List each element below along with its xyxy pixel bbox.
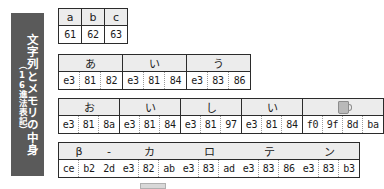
character-cell: い [120,99,180,116]
character-cell: - [99,143,119,160]
byte-cell-row: e3 81 97 [181,116,241,133]
byte-cell: e3 [181,116,201,133]
byte-cell-row: e3 83 ad [179,160,239,177]
character-cell: a [59,9,81,26]
byte-cell: 81 [201,116,221,133]
byte-cell: ad [219,160,239,177]
byte-cell: 61 [59,26,81,43]
character-cell: い [242,99,302,116]
byte-cell: 81 [79,116,99,133]
character-cell-emoji [303,99,383,116]
byte-cell: e3 [119,160,139,177]
char-group: カ e3 82 ab [119,143,179,177]
char-group: お e3 81 8a [59,99,120,133]
byte-cell: 62 [82,26,104,43]
byte-cell: b3 [339,160,359,177]
byte-cell: ce [59,160,79,177]
character-cell: ン [299,143,359,160]
byte-cell: f0 [303,116,323,133]
char-group: ン e3 83 b3 [299,143,359,177]
byte-cell: 84 [160,116,180,133]
char-group: a 61 [59,9,82,43]
byte-cell: e3 [242,116,262,133]
byte-cell: 82 [139,160,159,177]
character-cell: ロ [179,143,239,160]
char-group: c 63 [105,9,127,43]
char-group: し e3 81 97 [181,99,242,133]
byte-cell: b2 [79,160,99,177]
byte-table-oishii-emoji: お e3 81 8a い e3 81 84 し e3 81 [58,98,384,134]
byte-cell: 8d [343,116,363,133]
byte-cell: 82 [101,72,122,89]
byte-table-beta-karaten: β ce b2 - 2d カ e3 82 ab [58,142,360,178]
byte-cell-row: e3 83 86 [239,160,299,177]
byte-table-ascii-abc: a 61 b 62 c 63 [58,8,128,44]
table-row: a 61 b 62 c 63 [59,9,127,43]
byte-cell: ab [159,160,179,177]
byte-cell: ba [363,116,383,133]
byte-cell-row: e3 81 84 [242,116,302,133]
character-cell: お [59,99,119,116]
byte-cell-row: e3 81 8a [59,116,119,133]
character-cell: し [181,99,241,116]
byte-cell-row: 63 [105,26,127,43]
byte-cell: 84 [282,116,302,133]
byte-cell: 86 [229,72,250,89]
character-cell: β [59,143,99,160]
byte-cell: e3 [59,116,79,133]
character-cell: い [123,55,186,72]
cut-off-element-below [140,183,166,189]
char-group-emoji: f0 9f 8d ba [303,99,383,133]
byte-cell: e3 [123,72,144,89]
byte-cell: e3 [187,72,208,89]
byte-cell-row: 2d [99,160,119,177]
character-cell: う [187,55,250,72]
byte-table-hiragana-aiu: あ e3 81 82 い e3 81 84 う e3 83 [58,54,251,90]
byte-cell: 97 [221,116,241,133]
caption-main-text: 文字列とメモリの中身 [26,34,38,156]
character-cell: テ [239,143,299,160]
char-group: い e3 81 84 [242,99,303,133]
byte-cell: 81 [262,116,282,133]
byte-cell: e3 [59,72,80,89]
byte-cell: 8a [99,116,119,133]
char-group: あ e3 81 82 [59,55,123,89]
character-cell: b [82,9,104,26]
byte-cell: 2d [99,160,119,177]
byte-cell-row: f0 9f 8d ba [303,116,383,133]
byte-cell: 83 [319,160,339,177]
character-cell: c [105,9,127,26]
char-group: β ce b2 [59,143,99,177]
byte-cell: e3 [239,160,259,177]
byte-cell: 83 [199,160,219,177]
byte-cell: e3 [299,160,319,177]
byte-cell-row: e3 81 84 [120,116,180,133]
table-row: β ce b2 - 2d カ e3 82 ab [59,143,359,177]
byte-cell-row: ce b2 [59,160,99,177]
char-group: - 2d [99,143,119,177]
byte-cell: e3 [179,160,199,177]
byte-cell: 81 [140,116,160,133]
byte-cell: 83 [208,72,229,89]
byte-cell: 86 [279,160,299,177]
byte-cell: 83 [259,160,279,177]
byte-cell: e3 [120,116,140,133]
table-row: お e3 81 8a い e3 81 84 し e3 81 [59,99,383,133]
byte-cell: 9f [323,116,343,133]
table-row: あ e3 81 82 い e3 81 84 う e3 83 [59,55,250,89]
byte-cell-row: e3 83 86 [187,72,250,89]
byte-cell-row: e3 81 82 [59,72,122,89]
byte-cell-row: 62 [82,26,104,43]
character-cell: あ [59,55,122,72]
vertical-caption-bar: 文字列とメモリの中身 （16進法表記） [11,13,44,176]
char-group: テ e3 83 86 [239,143,299,177]
char-group: b 62 [82,9,105,43]
byte-cell-row: e3 83 b3 [299,160,359,177]
beer-mug-icon [338,101,349,114]
byte-cell: 63 [105,26,127,43]
byte-cell: 84 [165,72,186,89]
byte-cell: 81 [80,72,101,89]
character-cell: カ [119,143,179,160]
char-group: う e3 83 86 [187,55,250,89]
